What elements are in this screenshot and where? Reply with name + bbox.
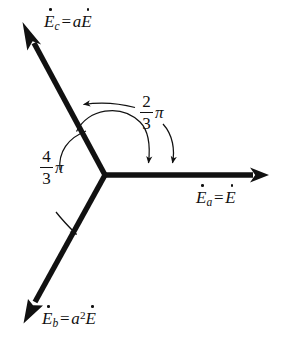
eb-expression-symbol: E: [86, 310, 96, 327]
fraction-numerator: 2: [141, 93, 152, 110]
eb-symbol: E: [42, 310, 52, 327]
fraction-bar: [140, 112, 153, 113]
ec-symbol: E: [44, 13, 54, 30]
pi-symbol: π: [55, 158, 64, 178]
phasor-ec-label: Ec=aE: [44, 13, 92, 33]
ec-equals: =: [61, 12, 71, 31]
phasor-ea-label: Ea=E: [196, 189, 236, 209]
eb-equals: =: [60, 309, 70, 328]
fraction-denominator: 3: [141, 115, 152, 132]
fraction-numerator: 4: [41, 148, 52, 165]
phasor-ec-arrow: [23, 22, 106, 175]
ea-equals: =: [214, 188, 224, 207]
ec-expression-symbol: E: [81, 13, 91, 30]
pointer-to-ec-arm: [84, 103, 136, 107]
phasor-diagram: Ec=aE Ea=E Eb=a2E 2 3 π 4 3 π: [0, 0, 286, 347]
angle-four-thirds-pi-label: 4 3 π: [40, 148, 64, 187]
fraction-bar: [40, 167, 53, 168]
pointer-to-eb-arm: [56, 212, 77, 235]
ec-subscript: c: [55, 20, 60, 33]
fraction-denominator: 3: [41, 170, 52, 187]
angle-two-thirds-pi-label: 2 3 π: [140, 93, 164, 132]
phasor-eb-arrow: [24, 175, 106, 324]
pi-symbol: π: [155, 103, 164, 123]
phasor-ea-arrow: [105, 167, 269, 182]
ea-symbol: E: [196, 189, 206, 206]
curve-label-to-ea-arm: [163, 124, 173, 163]
eb-subscript: b: [53, 317, 59, 330]
fraction-two-thirds: 2 3: [140, 93, 153, 132]
ea-expression-symbol: E: [225, 189, 235, 206]
eb-coefficient: a: [71, 309, 80, 328]
phasor-eb-head: [24, 299, 44, 324]
phasor-eb-shaft: [35, 175, 105, 302]
fraction-four-thirds: 4 3: [40, 148, 53, 187]
ec-coefficient: a: [73, 12, 82, 31]
phasor-eb-label: Eb=a2E: [42, 310, 96, 330]
ea-subscript: a: [207, 196, 213, 209]
